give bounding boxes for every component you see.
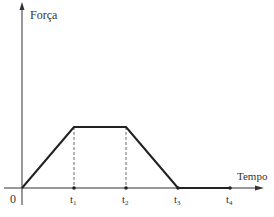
tick-t3 <box>176 186 180 190</box>
t3-label: t3 <box>174 193 181 207</box>
y-axis-label: Força <box>30 8 58 22</box>
t4-label: t4 <box>226 193 233 207</box>
tick-t4 <box>228 186 232 190</box>
x-axis-arrow-icon <box>255 186 264 191</box>
y-axis-arrow-icon <box>20 2 25 10</box>
tick-t1 <box>72 186 76 190</box>
force-time-diagram: Força Tempo 0 t1 t2 t3 t4 <box>0 0 274 217</box>
origin-label: 0 <box>10 192 16 206</box>
x-axis-label: Tempo <box>237 170 268 182</box>
t2-label: t2 <box>122 193 129 207</box>
t1-label: t1 <box>70 193 77 207</box>
tick-t2 <box>124 186 128 190</box>
